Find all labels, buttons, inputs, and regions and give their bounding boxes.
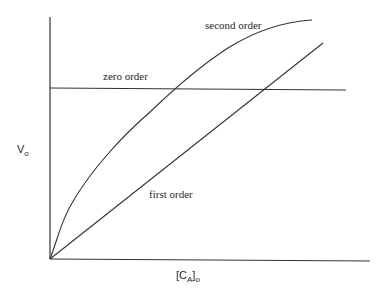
first-order-line — [50, 43, 323, 259]
rate-vs-concentration-chart — [0, 0, 387, 296]
zero-order-label: zero order — [103, 71, 148, 82]
y-axis-label: Vo — [17, 144, 29, 158]
first-order-label: first order — [149, 189, 193, 200]
x-axis — [50, 259, 370, 261]
zero-order-line — [50, 88, 346, 90]
second-order-label: second order — [205, 20, 262, 31]
second-order-curve — [50, 20, 312, 259]
x-axis-label: [CA]o — [176, 270, 200, 284]
